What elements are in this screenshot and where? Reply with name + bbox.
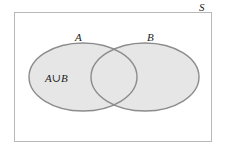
venn-diagram-svg — [0, 0, 225, 146]
set-a-label: A — [75, 32, 82, 43]
universe-label: S — [199, 2, 205, 13]
union-label: A∪B — [45, 73, 68, 84]
venn-diagram: S A B A∪B — [0, 0, 225, 146]
set-b-label: B — [147, 32, 154, 43]
